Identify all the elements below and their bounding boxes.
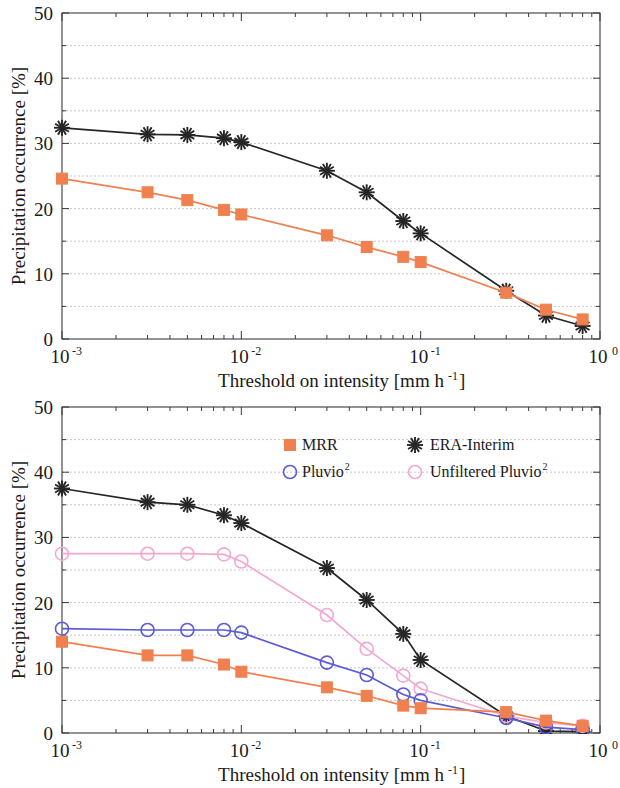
legend-label-exponent: 2 — [543, 461, 548, 472]
data-point-marker — [398, 251, 409, 262]
x-tick-exponent: -3 — [72, 738, 82, 752]
panel-top: 01020304050Precipitation occurrence [%]1… — [0, 0, 620, 394]
data-point-marker — [57, 173, 68, 184]
legend-label: Unfiltered Pluvio — [430, 463, 542, 480]
x-tick-exponent: 0 — [612, 738, 618, 752]
data-point-marker — [57, 636, 68, 647]
series-group — [54, 120, 591, 334]
x-axis-label-close: ] — [459, 764, 465, 785]
x-axis-label-text: Threshold on intensity [mm h — [218, 764, 444, 785]
data-point-marker — [218, 204, 229, 215]
y-axis-label: Precipitation occurrence [%] — [8, 461, 29, 679]
series-line — [62, 554, 583, 726]
chart-bottom: 01020304050Precipitation occurrence [%]1… — [0, 394, 620, 788]
legend-entry: MRR — [285, 436, 338, 453]
x-axis-label: Threshold on intensity [mm h-1] — [218, 763, 465, 785]
x-axis-label: Threshold on intensity [mm h-1] — [218, 369, 465, 391]
y-tick-label: 30 — [34, 527, 53, 548]
data-point-marker — [218, 659, 229, 670]
legend: MRRERA-InterimPluvio2Unfiltered Pluvio2 — [284, 436, 548, 480]
x-tick-mantissa: 10 — [409, 346, 428, 367]
y-tick-label: 10 — [34, 658, 53, 679]
data-point-marker — [236, 209, 247, 220]
x-tick-exponent: -3 — [72, 344, 82, 358]
legend-label: Pluvio — [302, 463, 344, 480]
data-point-marker — [361, 242, 372, 253]
chart-top: 01020304050Precipitation occurrence [%]1… — [0, 0, 620, 394]
y-tick-label: 30 — [34, 133, 53, 154]
x-axis: 10-310-210-1100 — [51, 407, 619, 761]
data-point-marker — [361, 690, 372, 701]
x-axis-label-exponent: -1 — [448, 763, 458, 777]
data-point-marker — [321, 230, 332, 241]
x-axis-label-exponent: -1 — [448, 369, 458, 383]
x-tick-label: 100 — [589, 738, 619, 761]
x-axis-label-close: ] — [459, 370, 465, 391]
data-point-marker — [236, 666, 247, 677]
y-tick-label: 20 — [34, 199, 53, 220]
x-tick-label: 10-3 — [51, 738, 83, 761]
x-tick-mantissa: 10 — [51, 346, 70, 367]
legend-label-exponent: 2 — [345, 461, 350, 472]
x-tick-mantissa: 10 — [51, 740, 70, 761]
y-axis-label: Precipitation occurrence [%] — [8, 67, 29, 285]
data-point-marker — [142, 187, 153, 198]
data-point-marker — [501, 707, 512, 718]
legend-entry: Pluvio2 — [284, 461, 350, 480]
x-tick-label: 10-2 — [230, 344, 262, 367]
y-tick-label: 50 — [34, 397, 53, 418]
series-group — [54, 481, 591, 740]
x-axis-label-text: Threshold on intensity [mm h — [218, 370, 444, 391]
data-point-marker — [577, 720, 588, 731]
x-tick-exponent: -1 — [431, 344, 441, 358]
x-tick-label: 10-1 — [409, 344, 441, 367]
legend-label: ERA-Interim — [430, 436, 515, 453]
legend-entry: ERA-Interim — [407, 436, 515, 453]
y-tick-label: 10 — [34, 264, 53, 285]
data-point-marker — [415, 257, 426, 268]
y-tick-label: 40 — [34, 68, 53, 89]
y-axis: 01020304050 — [34, 3, 600, 350]
x-tick-mantissa: 10 — [589, 346, 608, 367]
data-point-marker — [415, 703, 426, 714]
legend-marker-filled-square — [285, 440, 296, 451]
x-tick-mantissa: 10 — [409, 740, 428, 761]
data-point-marker — [577, 314, 588, 325]
y-tick-label: 50 — [34, 3, 53, 24]
series-unfiltered-pluvio2 — [56, 547, 590, 732]
data-point-marker — [182, 650, 193, 661]
series-pluvio2 — [56, 622, 590, 736]
x-tick-mantissa: 10 — [230, 346, 249, 367]
data-point-marker — [182, 195, 193, 206]
data-point-marker — [541, 304, 552, 315]
x-tick-exponent: -1 — [431, 738, 441, 752]
figure-root: 01020304050Precipitation occurrence [%]1… — [0, 0, 620, 788]
x-tick-label: 10-1 — [409, 738, 441, 761]
y-tick-label: 40 — [34, 462, 53, 483]
data-point-marker — [142, 650, 153, 661]
x-tick-label: 10-2 — [230, 738, 262, 761]
data-point-marker — [321, 682, 332, 693]
x-tick-label: 10-3 — [51, 344, 83, 367]
legend-entry: Unfiltered Pluvio2 — [409, 461, 548, 480]
data-point-marker — [541, 715, 552, 726]
series-mrr — [57, 636, 589, 731]
x-tick-exponent: -2 — [251, 344, 261, 358]
x-tick-mantissa: 10 — [230, 740, 249, 761]
panel-bottom: 01020304050Precipitation occurrence [%]1… — [0, 394, 620, 788]
series-era-interim — [54, 120, 591, 334]
data-point-marker — [501, 287, 512, 298]
x-tick-exponent: 0 — [612, 344, 618, 358]
x-tick-mantissa: 10 — [589, 740, 608, 761]
x-tick-label: 100 — [589, 344, 619, 367]
x-tick-exponent: -2 — [251, 738, 261, 752]
data-point-marker — [398, 700, 409, 711]
y-tick-label: 20 — [34, 593, 53, 614]
legend-label: MRR — [302, 436, 338, 453]
series-mrr — [57, 173, 589, 325]
